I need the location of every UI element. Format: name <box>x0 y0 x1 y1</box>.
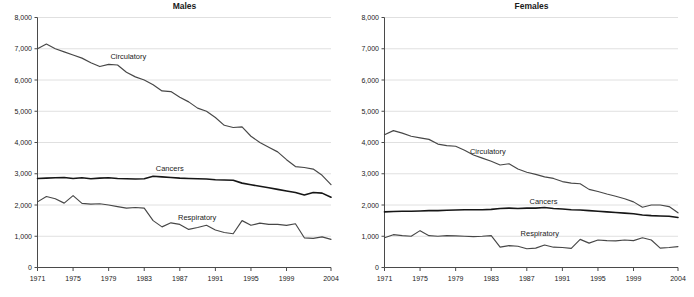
cancers-line <box>38 176 332 197</box>
y-tick-label: 8,000 <box>361 14 379 21</box>
circulatory-label: Circulatory <box>470 147 506 156</box>
x-tick-label: 1971 <box>377 275 393 282</box>
x-tick-label: 1975 <box>65 275 81 282</box>
x-tick-label: 1995 <box>590 275 606 282</box>
x-tick-label: 1991 <box>555 275 571 282</box>
respiratory-label: Respiratory <box>178 213 217 222</box>
cancers-label: Cancers <box>529 197 557 206</box>
x-tick-label: 1987 <box>172 275 188 282</box>
y-tick-label: 1,000 <box>14 233 32 240</box>
males-chart-panel: Males 01,0002,0003,0004,0005,0006,0007,0… <box>0 0 347 297</box>
y-tick-label: 4,000 <box>14 139 32 146</box>
y-tick-label: 2,000 <box>361 202 379 209</box>
mortality-trends-figure: Males 01,0002,0003,0004,0005,0006,0007,0… <box>0 0 694 297</box>
x-tick-label: 2004 <box>670 275 686 282</box>
x-tick-label: 1979 <box>448 275 464 282</box>
y-tick-label: 0 <box>28 264 32 271</box>
males-chart: 01,0002,0003,0004,0005,0006,0007,0008,00… <box>0 0 347 297</box>
x-tick-label: 1971 <box>30 275 46 282</box>
x-tick-label: 2004 <box>323 275 339 282</box>
cancers-label: Cancers <box>156 164 184 173</box>
x-tick-label: 1983 <box>483 275 499 282</box>
x-tick-label: 1975 <box>412 275 428 282</box>
y-tick-label: 7,000 <box>14 45 32 52</box>
females-chart: 01,0002,0003,0004,0005,0006,0007,0008,00… <box>347 0 694 297</box>
x-tick-label: 1995 <box>243 275 259 282</box>
x-tick-label: 1999 <box>626 275 642 282</box>
y-tick-label: 7,000 <box>361 45 379 52</box>
y-tick-label: 5,000 <box>14 108 32 115</box>
y-tick-label: 6,000 <box>14 77 32 84</box>
y-tick-label: 5,000 <box>361 108 379 115</box>
circulatory-line <box>38 44 332 185</box>
y-tick-label: 0 <box>375 264 379 271</box>
y-tick-label: 2,000 <box>14 202 32 209</box>
x-tick-label: 1999 <box>279 275 295 282</box>
cancers-line <box>385 208 679 218</box>
y-tick-label: 6,000 <box>361 77 379 84</box>
y-tick-label: 1,000 <box>361 233 379 240</box>
y-tick-label: 8,000 <box>14 14 32 21</box>
y-tick-label: 3,000 <box>14 170 32 177</box>
x-tick-label: 1979 <box>101 275 117 282</box>
x-tick-label: 1987 <box>519 275 535 282</box>
y-tick-label: 4,000 <box>361 139 379 146</box>
females-chart-panel: Females 01,0002,0003,0004,0005,0006,0007… <box>347 0 694 297</box>
x-tick-label: 1991 <box>208 275 224 282</box>
circulatory-label: Circulatory <box>110 52 146 61</box>
respiratory-label: Respiratory <box>521 229 560 238</box>
x-tick-label: 1983 <box>136 275 152 282</box>
y-tick-label: 3,000 <box>361 170 379 177</box>
